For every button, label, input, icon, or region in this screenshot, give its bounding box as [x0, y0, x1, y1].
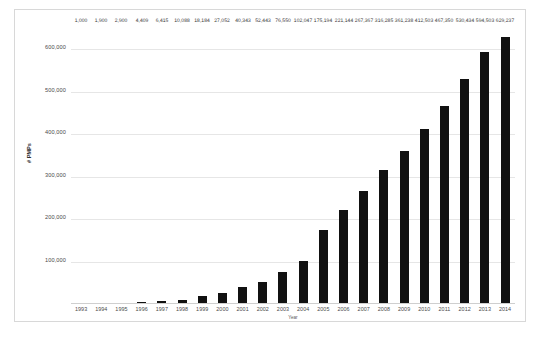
bar[interactable]: 467,350 — [440, 106, 449, 304]
y-axis-tick-label: 400,000 — [45, 129, 66, 135]
x-axis-tick-label: 2002 — [253, 306, 273, 312]
bar-value-label: 102,047 — [294, 16, 312, 22]
bar[interactable]: 316,285 — [379, 170, 388, 304]
bar-value-label: 175,194 — [314, 16, 332, 22]
bar-value-label: 76,550 — [275, 16, 291, 22]
x-axis-tick-label: 2008 — [374, 306, 394, 312]
x-axis-tick-label: 2005 — [313, 306, 333, 312]
bar-slot[interactable]: 1,900 — [91, 24, 111, 304]
bar-slot[interactable]: 6,415 — [152, 24, 172, 304]
bar-slot[interactable]: 316,285 — [374, 24, 394, 304]
bar-value-label: 40,343 — [235, 16, 251, 22]
bar-value-label: 412,503 — [415, 16, 433, 22]
y-axis-tick-label: 100,000 — [45, 257, 66, 263]
bar-slot[interactable]: 530,434 — [455, 24, 475, 304]
y-axis-tick-label: 500,000 — [45, 87, 66, 93]
x-axis-tick-label: 2014 — [495, 306, 515, 312]
x-axis-tick-label: 2009 — [394, 306, 414, 312]
bar-slot[interactable]: 27,052 — [212, 24, 232, 304]
y-axis-tick-label: 300,000 — [45, 172, 66, 178]
plot-area: 100,000200,000300,000400,000500,000600,0… — [71, 24, 515, 304]
bar-slot[interactable]: 18,184 — [192, 24, 212, 304]
y-axis-tick-label: 200,000 — [45, 214, 66, 220]
bar-slot[interactable]: 467,350 — [434, 24, 454, 304]
bar-value-label: 221,144 — [334, 16, 352, 22]
bar-slot[interactable]: 52,443 — [253, 24, 273, 304]
bar-value-label: 4,409 — [135, 16, 148, 22]
bar-slot[interactable]: 267,367 — [354, 24, 374, 304]
x-axis-tick-label: 1994 — [91, 306, 111, 312]
bar[interactable]: 175,194 — [319, 230, 328, 304]
x-axis-tick-label: 2003 — [273, 306, 293, 312]
bar-slot[interactable]: 4,409 — [132, 24, 152, 304]
bar-value-label: 27,052 — [215, 16, 231, 22]
bar-slot[interactable]: 10,088 — [172, 24, 192, 304]
bar[interactable]: 267,367 — [359, 191, 368, 304]
bar[interactable]: 102,047 — [299, 261, 308, 304]
bar-value-label: 18,184 — [194, 16, 210, 22]
x-axis-tick-label: 2010 — [414, 306, 434, 312]
x-axis-tick-label: 1995 — [111, 306, 131, 312]
bar-slot[interactable]: 221,144 — [333, 24, 353, 304]
bar-value-label: 267,367 — [354, 16, 372, 22]
x-axis-tick-label: 2012 — [455, 306, 475, 312]
x-axis-tick-label: 1999 — [192, 306, 212, 312]
bar-slot[interactable]: 412,503 — [414, 24, 434, 304]
x-axis-tick-label: 2001 — [233, 306, 253, 312]
x-axis-tick-label: 1996 — [132, 306, 152, 312]
bar[interactable]: 530,434 — [460, 79, 469, 304]
x-axis-tick-label: 2006 — [333, 306, 353, 312]
bar-value-label: 316,285 — [375, 16, 393, 22]
bar-slot[interactable]: 1,000 — [71, 24, 91, 304]
bar-value-label: 2,900 — [115, 16, 128, 22]
bar-value-label: 1,900 — [95, 16, 108, 22]
x-axis-tick-label: 2011 — [434, 306, 454, 312]
x-axis-tick-label: 1993 — [71, 306, 91, 312]
bar[interactable]: 40,343 — [238, 287, 247, 304]
bar-slot[interactable]: 76,550 — [273, 24, 293, 304]
bar-slot[interactable]: 629,237 — [495, 24, 515, 304]
bar-slot[interactable]: 102,047 — [293, 24, 313, 304]
x-axis-tick-label: 2000 — [212, 306, 232, 312]
x-axis-tick-label: 1998 — [172, 306, 192, 312]
bar-value-label: 467,350 — [435, 16, 453, 22]
bar[interactable]: 412,503 — [420, 129, 429, 304]
x-axis-title: Year — [71, 315, 515, 320]
bar[interactable]: 76,550 — [278, 272, 287, 304]
bar[interactable]: 594,503 — [480, 52, 489, 304]
chart-frame: # PMPs 100,000200,000300,000400,000500,0… — [14, 9, 526, 322]
bar[interactable]: 629,237 — [501, 37, 510, 304]
bar-slot[interactable]: 40,343 — [233, 24, 253, 304]
bar-slot[interactable]: 2,900 — [111, 24, 131, 304]
x-axis-line — [71, 303, 515, 304]
bar-value-label: 594,503 — [476, 16, 494, 22]
bar-value-label: 530,434 — [455, 16, 473, 22]
x-axis-tick-label: 2004 — [293, 306, 313, 312]
x-axis-tick-labels: 1993199419951996199719981999200020012002… — [71, 306, 515, 312]
bar-value-label: 1,000 — [75, 16, 88, 22]
bar-value-label: 6,415 — [155, 16, 168, 22]
bar-value-label: 52,443 — [255, 16, 271, 22]
y-axis-title: # PMPs — [26, 143, 32, 163]
bar-value-label: 10,088 — [174, 16, 190, 22]
x-axis-tick-label: 2007 — [354, 306, 374, 312]
bar[interactable]: 221,144 — [339, 210, 348, 304]
bar-slot[interactable]: 594,503 — [475, 24, 495, 304]
bar[interactable]: 361,238 — [400, 151, 409, 304]
bar[interactable]: 52,443 — [258, 282, 267, 304]
x-axis-tick-label: 2013 — [475, 306, 495, 312]
bar-series: 1,0001,9002,9004,4096,41510,08818,18427,… — [71, 24, 515, 304]
x-axis-tick-label: 1997 — [152, 306, 172, 312]
bar-value-label: 629,237 — [496, 16, 514, 22]
bar-slot[interactable]: 175,194 — [313, 24, 333, 304]
y-axis-tick-label: 600,000 — [45, 44, 66, 50]
bar-value-label: 361,238 — [395, 16, 413, 22]
bar-slot[interactable]: 361,238 — [394, 24, 414, 304]
